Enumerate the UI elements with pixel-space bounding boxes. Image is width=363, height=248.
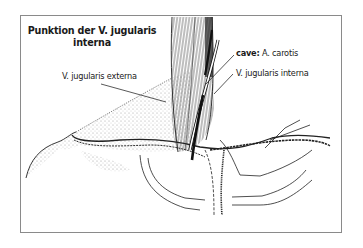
label-carotis-name: A. carotis [260,48,299,58]
label-jugularis-externa: V. jugularis externa [62,71,137,81]
figure-title: Punktion der V. jugularis interna [27,25,157,48]
label-jugularis-interna: V. jugularis interna [236,68,309,78]
figure-title-line2: interna [73,37,111,48]
label-carotis: cave: A. carotis [236,48,298,58]
figure-title-line1: Punktion der V. jugularis [28,25,157,36]
label-carotis-prefix: cave: [236,48,260,58]
